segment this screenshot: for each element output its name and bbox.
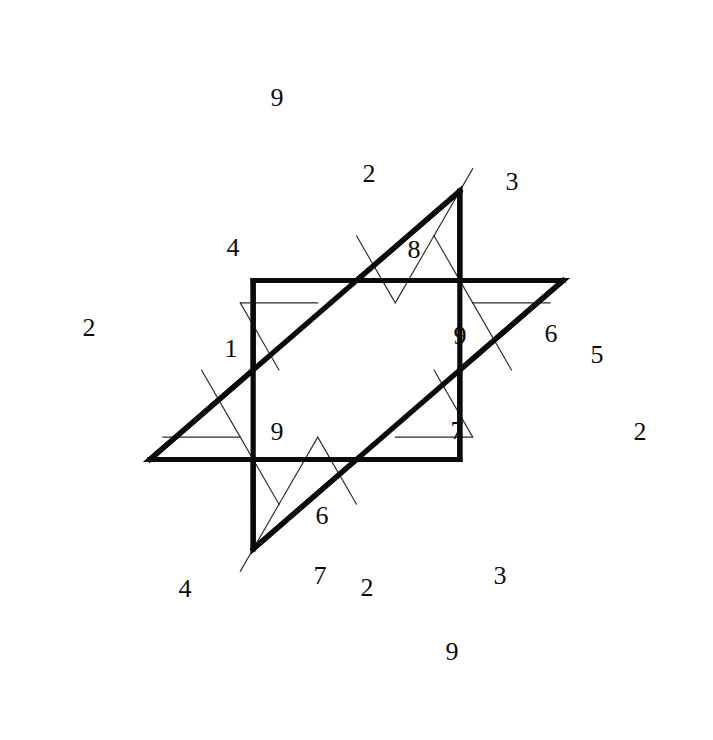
cell-number-label: 2: [83, 313, 96, 342]
cell-numbers-group: 9234821965972647239: [67, 78, 662, 676]
cell-number-label: 9: [271, 83, 284, 112]
cell-number-label: 8: [408, 235, 421, 264]
cell-number-label: 5: [591, 340, 604, 369]
cell-number-label: 2: [363, 159, 376, 188]
cell-top-tip-9[interactable]: 9: [255, 78, 299, 122]
grid-segment: [240, 504, 279, 571]
grid-segment: [357, 236, 396, 303]
cell-number-label: 9: [271, 417, 284, 446]
cell-right-6[interactable]: 6: [529, 314, 573, 358]
cell-upper-right-3[interactable]: 3: [490, 162, 534, 206]
cell-left-2[interactable]: 2: [67, 308, 111, 352]
cell-number-label: 1: [225, 334, 238, 363]
cell-bottom-tip-9[interactable]: 9: [430, 632, 474, 676]
cell-number-label: 3: [506, 167, 519, 196]
cell-bottom-right-3[interactable]: 3: [478, 556, 522, 600]
cell-number-label: 6: [545, 319, 558, 348]
cell-upper-2[interactable]: 2: [347, 154, 391, 198]
cell-number-label: 9: [454, 321, 467, 350]
cell-bottom-2[interactable]: 2: [345, 568, 389, 612]
grid-segment: [434, 169, 473, 236]
cell-number-label: 9: [446, 637, 459, 666]
star-triangle-edge: [253, 281, 563, 549]
cell-number-label: 6: [316, 501, 329, 530]
cell-lower-left-9[interactable]: 9: [255, 412, 299, 456]
cell-number-label: 7: [451, 416, 464, 445]
cell-mid-left-1[interactable]: 1: [209, 329, 253, 373]
cell-mid-right-9[interactable]: 9: [438, 316, 482, 360]
cell-upper-right-8[interactable]: 8: [392, 230, 436, 274]
cell-lower-right-7[interactable]: 7: [435, 411, 479, 455]
cell-number-label: 7: [314, 561, 327, 590]
cell-right-5[interactable]: 5: [575, 335, 619, 379]
cell-right-bottom-2[interactable]: 2: [618, 412, 662, 456]
grid-segment: [318, 437, 357, 504]
cell-number-label: 4: [227, 233, 240, 262]
cell-bottom-7[interactable]: 7: [298, 556, 342, 600]
grid-segment: [202, 370, 241, 437]
cell-number-label: 2: [634, 417, 647, 446]
puzzle-figure: 9234821965972647239: [0, 0, 713, 740]
cell-number-label: 2: [361, 573, 374, 602]
cell-lower-6[interactable]: 6: [300, 496, 344, 540]
cell-upper-left-4[interactable]: 4: [211, 228, 255, 272]
cell-bottom-left-4[interactable]: 4: [163, 569, 207, 613]
cell-number-label: 4: [179, 574, 192, 603]
cell-number-label: 3: [494, 561, 507, 590]
grid-segment: [434, 236, 473, 303]
star-of-david-grid: 9234821965972647239: [0, 0, 713, 740]
